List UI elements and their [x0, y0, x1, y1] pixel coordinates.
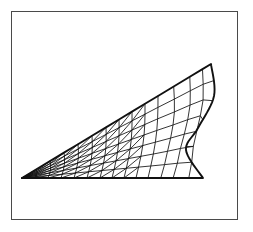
figure-root — [0, 0, 253, 232]
mesh-diagram — [0, 0, 253, 232]
mesh-outline — [22, 64, 215, 178]
